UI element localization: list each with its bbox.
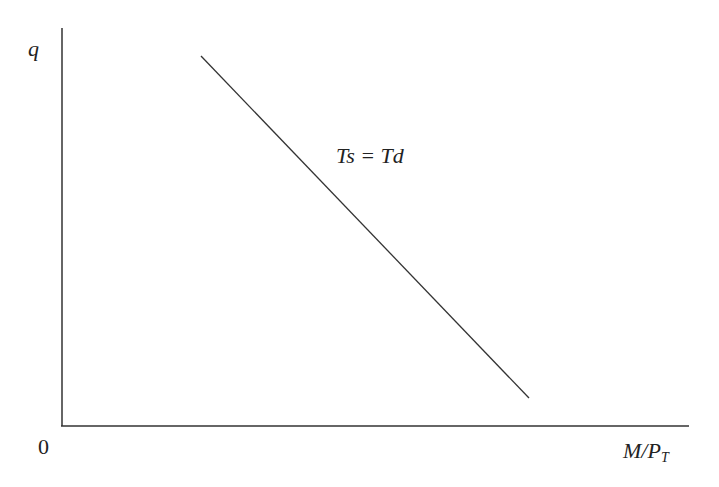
origin-label: 0: [38, 436, 49, 458]
y-axis-label: q: [28, 38, 39, 60]
x-axis-label-subscript: T: [661, 450, 669, 465]
curve-label: Ts = Td: [336, 145, 404, 167]
x-axis-label-main: M/P: [623, 438, 661, 463]
diagram-canvas: [0, 0, 719, 487]
x-axis-label: M/PT: [623, 440, 669, 465]
ts-td-line: [201, 56, 529, 398]
